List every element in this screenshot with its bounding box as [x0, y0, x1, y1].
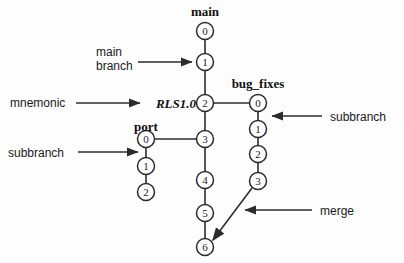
bug-fixes-node-3[interactable]: 3 [250, 173, 267, 190]
node-label: 1 [143, 160, 149, 172]
bug-fixes-node-2[interactable]: 2 [250, 146, 267, 163]
node-label: 1 [255, 123, 261, 135]
annotation-label-line-1: main [96, 45, 122, 59]
main-node-5[interactable]: 5 [197, 205, 214, 222]
annotation-label: subbranch [330, 110, 386, 124]
annotation-main-branch: main branch [96, 45, 192, 73]
node-label: 2 [255, 148, 261, 160]
node-label: 0 [202, 25, 208, 37]
node-label: 2 [202, 97, 208, 109]
annotation-merge: merge [245, 204, 354, 218]
bug-fixes-node-1[interactable]: 1 [250, 121, 267, 138]
main-node-4[interactable]: 4 [197, 172, 214, 189]
annotation-label: merge [320, 204, 354, 218]
main-branch-group: 0 1 2 3 4 5 6 [191, 4, 220, 256]
branch-tree-diagram: 0 1 2 3 4 5 6 [0, 0, 404, 263]
annotation-subbranch-right: subbranch [272, 110, 386, 124]
main-node-0[interactable]: 0 [197, 23, 214, 40]
port-node-1[interactable]: 1 [138, 158, 155, 175]
port-node-2[interactable]: 2 [138, 184, 155, 201]
node-label: 3 [255, 175, 261, 187]
mnemonic-label: RLS1.0 [155, 96, 197, 111]
bug-fixes-branch-group: 0 1 2 3 bug_fixes [213, 76, 284, 190]
node-label: 0 [143, 133, 149, 145]
node-label: 4 [202, 174, 208, 186]
bug-fixes-node-0[interactable]: 0 [250, 95, 267, 112]
node-label: 6 [202, 241, 208, 253]
node-label: 3 [202, 133, 208, 145]
main-node-1[interactable]: 1 [197, 54, 214, 71]
node-label: 0 [255, 97, 261, 109]
main-node-6[interactable]: 6 [197, 239, 214, 256]
branch-name-port: port [134, 119, 159, 134]
annotation-label-line-2: branch [96, 59, 133, 73]
main-node-3[interactable]: 3 [197, 131, 214, 148]
annotation-subbranch-left: subbranch [8, 146, 138, 160]
branch-name-main: main [191, 4, 220, 19]
annotation-label: subbranch [8, 146, 64, 160]
node-label: 2 [143, 186, 149, 198]
branch-name-bug-fixes: bug_fixes [232, 76, 285, 91]
annotation-mnemonic: mnemonic [10, 96, 140, 110]
node-label: 1 [202, 56, 208, 68]
port-branch-group: 0 1 2 port [134, 119, 197, 201]
main-node-2[interactable]: 2 [197, 95, 214, 112]
annotation-label: mnemonic [10, 96, 65, 110]
merge-arrow-edge [213, 188, 252, 240]
node-label: 5 [202, 207, 208, 219]
diagram-page: 0 1 2 3 4 5 6 [0, 0, 404, 263]
